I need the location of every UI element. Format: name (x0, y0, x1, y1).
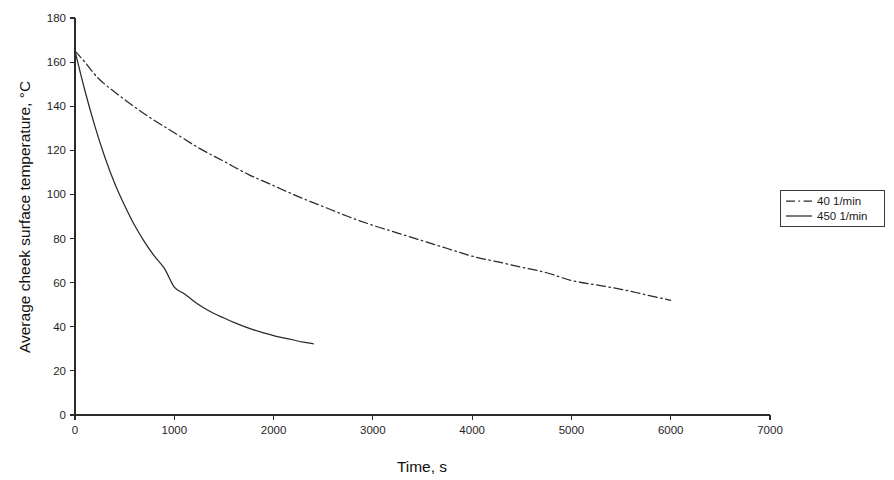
y-tick-label: 80 (53, 233, 66, 245)
y-tick-label: 120 (47, 144, 66, 156)
y-tick-label: 60 (53, 277, 66, 289)
legend-label: 40 1/min (817, 195, 861, 207)
axes (75, 18, 770, 415)
y-tick-label: 100 (47, 188, 66, 200)
y-tick-label: 0 (60, 409, 66, 421)
y-tick-label: 140 (47, 100, 66, 112)
y-axis-ticks: 020406080100120140160180 (47, 12, 75, 421)
line-chart: 020406080100120140160180 010002000300040… (0, 0, 894, 480)
x-axis-title: Time, s (397, 458, 447, 475)
data-series-group (75, 51, 671, 344)
series-line-40-1-min (75, 51, 671, 300)
chart-figure: 020406080100120140160180 010002000300040… (0, 0, 894, 480)
x-tick-label: 2000 (261, 424, 287, 436)
x-tick-label: 0 (72, 424, 78, 436)
y-tick-label: 40 (53, 321, 66, 333)
x-tick-label: 6000 (658, 424, 684, 436)
x-tick-label: 3000 (360, 424, 386, 436)
series-line-450-1-min (75, 51, 313, 344)
legend-label: 450 1/min (817, 210, 868, 222)
x-tick-label: 4000 (459, 424, 485, 436)
x-tick-label: 1000 (161, 424, 187, 436)
y-tick-label: 160 (47, 56, 66, 68)
x-axis-ticks: 01000200030004000500060007000 (72, 415, 783, 436)
legend: 40 1/min450 1/min (780, 190, 884, 226)
x-tick-label: 5000 (559, 424, 585, 436)
x-tick-label: 7000 (757, 424, 783, 436)
y-tick-label: 180 (47, 12, 66, 24)
y-tick-label: 20 (53, 365, 66, 377)
y-axis-title: Average cheek surface temperature, °C (16, 81, 33, 353)
